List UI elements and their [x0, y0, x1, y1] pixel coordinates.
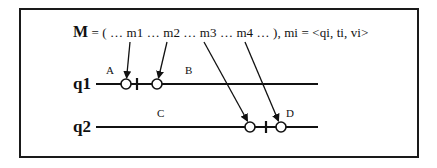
- arrow-m1: [127, 42, 130, 78]
- timeline-q2: [96, 121, 318, 133]
- diagram-canvas: [0, 0, 437, 168]
- arrow-m2: [159, 42, 168, 78]
- receive-event-m1: [121, 79, 131, 89]
- message-arrows: [127, 42, 279, 121]
- receive-event-m4: [276, 122, 286, 132]
- arrow-m3: [204, 42, 248, 121]
- timeline-q1: [96, 78, 318, 90]
- receive-event-m3: [245, 122, 255, 132]
- arrow-m4: [245, 42, 279, 121]
- receive-event-m2: [152, 79, 162, 89]
